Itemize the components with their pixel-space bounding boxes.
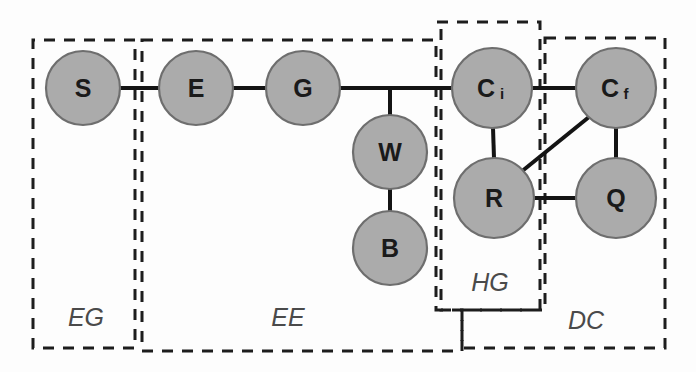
node-b[interactable]: B [353, 211, 427, 285]
group-label-hg: HG [471, 268, 509, 296]
node-label-b: B [381, 234, 399, 262]
group-label-dc: DC [568, 306, 605, 334]
node-s[interactable]: S [46, 51, 120, 125]
node-label-e: E [188, 74, 205, 102]
group-labels-layer: EGEEHGDC [68, 268, 605, 334]
node-label-w: W [378, 138, 402, 166]
node-label-q: Q [606, 184, 625, 212]
node-label-cf: C [601, 74, 619, 102]
nodes-layer: SEGWBCiCfRQ [46, 48, 656, 285]
node-e[interactable]: E [159, 51, 233, 125]
node-w[interactable]: W [353, 115, 427, 189]
node-label-g: G [293, 74, 312, 102]
node-cf[interactable]: Cf [576, 48, 656, 128]
node-q[interactable]: Q [576, 158, 656, 238]
group-label-eg: EG [68, 303, 104, 331]
diagram-canvas: SEGWBCiCfRQ EGEEHGDC [0, 0, 696, 372]
group-boundaries-layer [33, 22, 665, 351]
node-link-diagram: SEGWBCiCfRQ EGEEHGDC [0, 0, 696, 372]
node-label-r: R [485, 184, 503, 212]
edge-cf-r [521, 117, 589, 172]
node-g[interactable]: G [266, 51, 340, 125]
node-r[interactable]: R [454, 158, 534, 238]
node-label-ci: C [477, 74, 495, 102]
edge-ci-r [493, 128, 494, 158]
node-ci[interactable]: Ci [452, 48, 532, 128]
node-label-s: S [75, 74, 92, 102]
group-label-ee: EE [271, 303, 305, 331]
node-subscript-ci: i [500, 85, 504, 102]
